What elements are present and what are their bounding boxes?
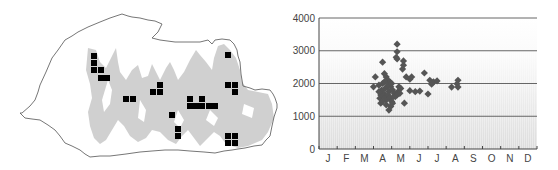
- distribution-map: [0, 0, 290, 170]
- record-marker: [225, 82, 231, 88]
- record-marker: [232, 82, 238, 88]
- y-tick-label: 4000: [293, 13, 316, 24]
- record-marker: [91, 67, 97, 73]
- record-marker: [199, 103, 205, 109]
- record-marker: [123, 96, 129, 102]
- x-tick-label: N: [506, 153, 513, 164]
- record-marker: [225, 52, 231, 58]
- x-tick-label: A: [379, 153, 386, 164]
- record-marker: [212, 103, 218, 109]
- record-marker: [175, 126, 181, 132]
- y-tick-label: 3000: [293, 45, 316, 56]
- x-tick-label: J: [416, 153, 421, 164]
- record-marker: [130, 96, 136, 102]
- record-marker: [187, 96, 193, 102]
- relief-shading: [86, 44, 274, 148]
- record-marker: [157, 82, 163, 88]
- y-tick-label: 2000: [293, 78, 316, 89]
- x-tick-label: A: [452, 153, 459, 164]
- record-marker: [232, 133, 238, 139]
- record-marker: [199, 96, 205, 102]
- record-marker: [175, 133, 181, 139]
- y-tick-label: 1000: [293, 111, 316, 122]
- x-tick-label: D: [524, 153, 531, 164]
- record-marker: [206, 103, 212, 109]
- record-marker: [104, 75, 110, 81]
- record-marker: [98, 75, 104, 81]
- y-tick-label: 0: [309, 144, 315, 155]
- x-tick-label: J: [326, 153, 331, 164]
- x-tick-label: J: [435, 153, 440, 164]
- record-marker: [91, 53, 97, 59]
- record-marker: [157, 89, 163, 95]
- x-tick-label: M: [397, 153, 405, 164]
- record-marker: [91, 60, 97, 66]
- x-tick-label: O: [488, 153, 496, 164]
- x-tick-label: F: [343, 153, 349, 164]
- record-marker: [232, 89, 238, 95]
- record-marker: [193, 103, 199, 109]
- record-marker: [225, 140, 231, 146]
- x-tick-label: M: [360, 153, 368, 164]
- y-axis-ticks: 01000200030004000: [293, 13, 316, 155]
- record-marker: [150, 89, 156, 95]
- record-marker: [225, 133, 231, 139]
- elevation-month-chart: 01000200030004000 JFMAMJJASOND: [290, 0, 558, 170]
- record-marker: [169, 112, 175, 118]
- record-marker: [187, 103, 193, 109]
- record-marker: [98, 67, 104, 73]
- x-tick-label: S: [470, 153, 477, 164]
- record-marker: [232, 140, 238, 146]
